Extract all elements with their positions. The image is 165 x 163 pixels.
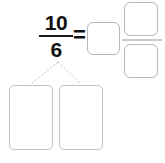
answer-box-whole-number[interactable]	[87, 22, 120, 55]
improper-fraction: 10 6	[38, 12, 74, 60]
answer-box-denominator[interactable]	[124, 44, 158, 78]
fraction-bar	[39, 35, 73, 37]
decomposition-box-1[interactable]	[9, 85, 53, 150]
mixed-number-fraction-bar	[122, 39, 162, 41]
decomposition-box-2[interactable]	[59, 85, 103, 150]
answer-box-numerator[interactable]	[124, 2, 158, 36]
fraction-numerator: 10	[38, 12, 74, 33]
fraction-denominator: 6	[38, 39, 74, 60]
equals-sign: =	[73, 24, 86, 46]
worksheet-canvas: 10 6 =	[0, 0, 165, 163]
